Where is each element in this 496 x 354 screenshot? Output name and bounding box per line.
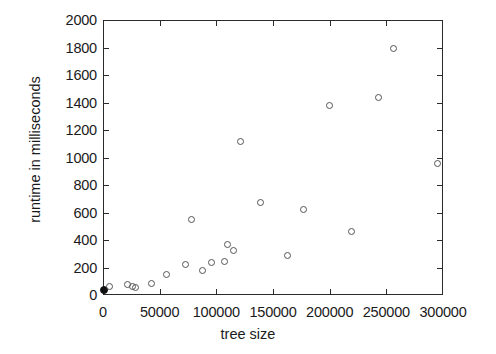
- y-tick-mark: [103, 103, 109, 104]
- y-tick-mark: [103, 213, 109, 214]
- y-tick-mark-right: [437, 240, 443, 241]
- y-tick-mark-right: [437, 103, 443, 104]
- data-point: [300, 206, 307, 213]
- x-tick-label: 0: [99, 305, 107, 320]
- x-tick-label: 50000: [140, 305, 179, 320]
- x-tick-mark: [273, 289, 274, 295]
- data-point: [230, 247, 237, 254]
- data-point: [106, 283, 113, 290]
- x-tick-label: 300000: [419, 305, 466, 320]
- y-tick-label: 1200: [66, 123, 97, 138]
- x-tick-mark-top: [330, 20, 331, 26]
- data-point: [208, 259, 215, 266]
- y-axis-title: runtime in milliseconds: [28, 40, 43, 260]
- y-tick-mark-right: [437, 268, 443, 269]
- y-tick-mark: [103, 158, 109, 159]
- data-point: [257, 199, 264, 206]
- data-point: [284, 252, 291, 259]
- y-tick-mark: [103, 75, 109, 76]
- y-tick-mark-right: [437, 75, 443, 76]
- x-tick-mark-top: [386, 20, 387, 26]
- y-tick-label: 200: [73, 261, 97, 276]
- data-point: [221, 258, 228, 265]
- data-point: [375, 94, 382, 101]
- data-point: [390, 45, 397, 52]
- data-point: [326, 102, 333, 109]
- data-point: [148, 280, 155, 287]
- x-tick-label: 100000: [193, 305, 240, 320]
- data-point: [163, 271, 170, 278]
- x-tick-label: 200000: [306, 305, 353, 320]
- data-point: [182, 261, 189, 268]
- y-tick-mark-right: [437, 48, 443, 49]
- data-point: [132, 284, 139, 291]
- y-tick-label: 1400: [66, 96, 97, 111]
- y-tick-label: 400: [73, 233, 97, 248]
- y-tick-mark-right: [437, 185, 443, 186]
- x-tick-mark: [386, 289, 387, 295]
- y-tick-label: 1600: [66, 68, 97, 83]
- y-tick-mark: [103, 268, 109, 269]
- y-tick-mark: [103, 240, 109, 241]
- y-tick-label: 600: [73, 206, 97, 221]
- data-point: [434, 160, 441, 167]
- x-tick-mark-top: [160, 20, 161, 26]
- y-tick-label: 2000: [66, 13, 97, 28]
- x-tick-mark: [160, 289, 161, 295]
- x-tick-mark-top: [273, 20, 274, 26]
- x-tick-mark: [330, 289, 331, 295]
- plot-area: [103, 20, 443, 295]
- y-tick-label: 1800: [66, 41, 97, 56]
- y-tick-mark: [103, 48, 109, 49]
- data-point: [188, 216, 195, 223]
- data-point: [348, 228, 355, 235]
- y-tick-mark: [103, 130, 109, 131]
- x-axis-title: tree size: [0, 327, 496, 342]
- x-tick-mark: [216, 289, 217, 295]
- y-tick-mark-right: [437, 158, 443, 159]
- x-tick-mark-top: [216, 20, 217, 26]
- x-tick-label: 250000: [363, 305, 410, 320]
- y-tick-label: 1000: [66, 151, 97, 166]
- y-tick-mark-right: [437, 130, 443, 131]
- y-tick-mark-right: [437, 213, 443, 214]
- y-tick-label: 800: [73, 178, 97, 193]
- data-point: [237, 138, 244, 145]
- data-point: [199, 267, 206, 274]
- x-tick-label: 150000: [249, 305, 296, 320]
- y-tick-label: 0: [89, 288, 97, 303]
- scatter-plot-figure: 0200400600800100012001400160018002000 05…: [0, 0, 496, 354]
- y-tick-mark: [103, 185, 109, 186]
